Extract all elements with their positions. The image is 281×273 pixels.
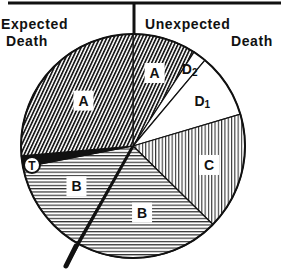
slice-label-b: B [71, 178, 81, 194]
unexpected-death-label-line2: Death [231, 33, 273, 50]
slice-label-t: T [28, 159, 36, 173]
expected-death-label: Expected [1, 16, 68, 33]
pie-slices [21, 34, 245, 258]
unexpected-death-label: Unexpected [145, 16, 230, 33]
slice-label-a: A [78, 93, 88, 109]
expected-death-label-line2: Death [6, 33, 48, 50]
slice-label-c: C [204, 157, 214, 173]
slice-label-a: A [150, 65, 160, 81]
slice-label-b: B [137, 205, 147, 221]
pointer-stick-tip [66, 246, 76, 266]
